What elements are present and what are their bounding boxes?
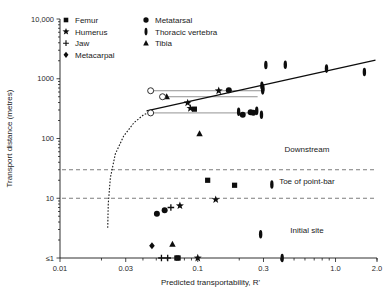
- data-point-femur: [232, 183, 237, 188]
- legend-label-tibia: Tibia: [155, 39, 173, 48]
- x-tick-label-5: 2.0: [372, 264, 382, 273]
- data-point-humerus: [215, 87, 223, 95]
- legend-label-metacarpal: Metacarpal: [75, 51, 115, 60]
- open-marker-2: [148, 110, 154, 116]
- data-point-tibia: [196, 130, 202, 136]
- data-point-thoracic-vertebra: [270, 180, 273, 189]
- data-point-metatarsal: [226, 87, 232, 93]
- y-tick-label-4: ≤1: [46, 254, 54, 263]
- legend-label-humerus: Humerus: [75, 28, 107, 37]
- data-point-thoracic-vertebra: [260, 110, 263, 119]
- data-point-thoracic-vertebra: [255, 107, 258, 116]
- data-point-metacarpal: [149, 242, 155, 249]
- y-tick-label-0: 10,000: [31, 15, 54, 24]
- data-point-thoracic-vertebra: [237, 107, 240, 116]
- y-tick-label-3: 10: [46, 194, 54, 203]
- legend-label-femur: Femur: [75, 16, 98, 25]
- open-marker-1: [160, 94, 166, 100]
- x-tick-label-1: 0.03: [118, 264, 133, 273]
- zone-label-downstream: Downstream: [284, 145, 329, 154]
- data-point-humerus: [176, 202, 184, 210]
- zone-label-initial-site: Initial site: [290, 226, 324, 235]
- data-point-metatarsal: [240, 112, 246, 118]
- x-tick-label-0: 0.01: [53, 264, 68, 273]
- legend-marker-metacarpal: [64, 52, 69, 58]
- data-point-thoracic-vertebra: [259, 230, 262, 239]
- legend-marker-femur: [64, 18, 69, 23]
- data-point-jaw: [168, 204, 175, 211]
- data-point-metatarsal: [162, 207, 168, 213]
- legend-label-thoracic-vertebra: Thoracic vertebra: [155, 28, 218, 37]
- legend-marker-metatarsal: [143, 17, 148, 22]
- chart-figure: 10,000100010010≤10.010.030.10.31.02.0Tra…: [0, 0, 387, 301]
- x-axis-title: Predicted transportability, R': [161, 278, 261, 287]
- data-point-femur: [205, 178, 210, 183]
- x-tick-label-4: 1.0: [330, 264, 340, 273]
- y-tick-label-2: 100: [41, 134, 54, 143]
- legend-marker-humerus: [62, 28, 69, 35]
- legend-label-jaw: Jaw: [75, 39, 89, 48]
- legend-marker-jaw: [63, 40, 69, 46]
- x-tick-label-3: 0.3: [258, 264, 268, 273]
- legend-marker-thoracic-vertebra: [145, 28, 148, 36]
- data-point-tibia: [169, 241, 175, 247]
- data-point-humerus: [212, 195, 220, 203]
- data-point-thoracic-vertebra: [264, 61, 267, 70]
- legend-marker-tibia: [143, 40, 149, 45]
- data-point-metatarsal: [154, 211, 160, 217]
- open-marker-0: [148, 88, 154, 94]
- y-axis-title: Transport distance (metres): [5, 89, 14, 187]
- data-point-thoracic-vertebra: [325, 64, 328, 73]
- data-point-thoracic-vertebra: [284, 60, 287, 69]
- legend-label-metatarsal: Metatarsal: [155, 16, 193, 25]
- x-tick-label-2: 0.1: [193, 264, 203, 273]
- data-point-thoracic-vertebra: [363, 68, 366, 77]
- y-tick-label-1: 1000: [37, 74, 54, 83]
- scatter-plot-svg: 10,000100010010≤10.010.030.10.31.02.0Tra…: [0, 0, 387, 301]
- data-point-thoracic-vertebra: [261, 86, 264, 95]
- zone-label-toe-of-point-bar: Toe of point-bar: [279, 177, 335, 186]
